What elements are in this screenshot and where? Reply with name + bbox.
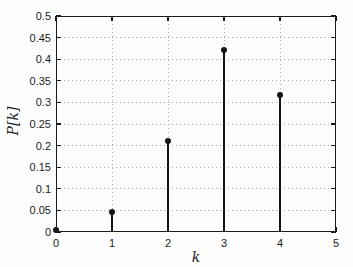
tick-layer [56, 16, 336, 232]
x-tick-label: 0 [44, 237, 68, 250]
x-tick-mark [335, 227, 336, 232]
y-tick-mark [56, 102, 61, 103]
y-tick-label: 0.4 [1, 53, 51, 65]
stem-plot-figure: k P[k] 00.050.10.150.20.250.30.350.40.45… [0, 0, 353, 267]
y-tick-label: 0.5 [1, 10, 51, 22]
y-tick-label: 0.3 [1, 96, 51, 108]
x-tick-mark [279, 16, 280, 21]
y-tick-label: 0.15 [1, 161, 51, 173]
x-axis-label: k [56, 249, 336, 265]
y-tick-mark [56, 123, 61, 124]
y-tick-label: 0.05 [1, 204, 51, 216]
y-tick-mark [56, 231, 61, 232]
y-tick-mark [56, 37, 61, 38]
y-tick-mark [331, 102, 336, 103]
y-tick-mark [56, 210, 61, 211]
y-tick-label: 0.1 [1, 183, 51, 195]
y-tick-mark [56, 15, 61, 16]
y-tick-mark [331, 123, 336, 124]
y-tick-label: 0.25 [1, 118, 51, 130]
y-tick-label: 0.45 [1, 32, 51, 44]
y-tick-label: 0.2 [1, 140, 51, 152]
x-tick-mark [223, 227, 224, 232]
y-tick-mark [56, 188, 61, 189]
x-tick-label: 2 [156, 237, 180, 250]
x-tick-label: 3 [212, 237, 236, 250]
x-tick-mark [111, 16, 112, 21]
y-tick-mark [331, 145, 336, 146]
y-tick-mark [56, 59, 61, 60]
x-tick-mark [55, 227, 56, 232]
x-tick-label: 4 [268, 237, 292, 250]
x-tick-mark [167, 227, 168, 232]
y-tick-mark [331, 210, 336, 211]
x-tick-mark [279, 227, 280, 232]
y-tick-mark [56, 167, 61, 168]
y-tick-mark [331, 59, 336, 60]
y-tick-label: 0.35 [1, 75, 51, 87]
y-tick-mark [56, 80, 61, 81]
y-tick-mark [56, 145, 61, 146]
x-tick-label: 1 [100, 237, 124, 250]
x-tick-label: 5 [324, 237, 348, 250]
x-tick-mark [335, 16, 336, 21]
y-tick-mark [331, 188, 336, 189]
x-tick-mark [167, 16, 168, 21]
plot-area [56, 16, 336, 232]
y-tick-mark [331, 37, 336, 38]
x-tick-mark [223, 16, 224, 21]
x-tick-mark [111, 227, 112, 232]
y-tick-mark [331, 167, 336, 168]
x-tick-mark [55, 16, 56, 21]
y-tick-mark [331, 80, 336, 81]
